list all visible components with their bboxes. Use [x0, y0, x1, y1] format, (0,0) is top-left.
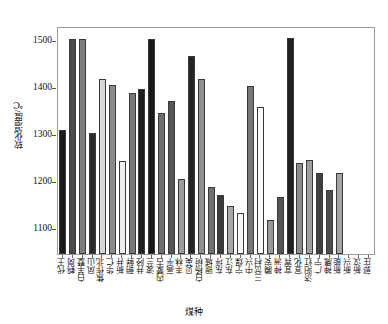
- x-tick-label-text: 腾安: [265, 258, 274, 274]
- bar: [247, 86, 254, 254]
- x-tick-label-text: 波兰: [147, 258, 156, 274]
- y-tick-mark-1300: [52, 135, 56, 136]
- x-tick-label-text: 贝英: [186, 258, 195, 274]
- x-tick-label: 白羊墅: [78, 258, 87, 282]
- bar: [237, 213, 244, 254]
- x-tick-label-text: 新井: [117, 258, 126, 274]
- y-tick-mark-1400: [52, 88, 56, 89]
- y-tick-label-1300: 1300: [33, 131, 52, 141]
- x-tick-mark: [250, 255, 251, 258]
- x-tick-mark: [259, 255, 260, 258]
- x-tick-label-text: 白杨树: [196, 258, 205, 282]
- x-tick-label-text: 济阳红: [305, 258, 314, 282]
- x-tick-label: 神鹰: [325, 258, 334, 274]
- x-tick-label: 神洲: [275, 258, 284, 274]
- x-tick-label-text: 银城: [206, 258, 215, 274]
- bar: [316, 173, 323, 254]
- x-tick-label-text: 神鹰: [325, 258, 334, 274]
- bar: [227, 206, 234, 254]
- x-tick-mark: [111, 255, 112, 258]
- bar: [257, 107, 264, 254]
- x-tick-label: 鹤岗: [68, 258, 77, 274]
- bar: [336, 173, 343, 254]
- x-tick-mark: [72, 255, 73, 258]
- bar: [168, 101, 175, 254]
- bar: [208, 187, 215, 254]
- bar: [129, 93, 136, 254]
- x-tick-label: 波兰: [147, 258, 156, 274]
- x-tick-mark: [161, 255, 162, 258]
- x-tick-label-text: 宜宾: [285, 258, 294, 274]
- x-tick-label: 新能: [334, 258, 343, 274]
- x-tick-mark: [348, 255, 349, 258]
- x-tick-mark: [319, 255, 320, 258]
- x-tick-mark: [358, 255, 359, 258]
- bar: [267, 220, 274, 254]
- x-tick-label: 腾安: [265, 258, 274, 274]
- x-tick-label: 内蒙古: [157, 258, 166, 282]
- plot-area: [57, 27, 375, 255]
- bar: [69, 39, 76, 254]
- x-tick-label-text: 凤山: [88, 258, 97, 274]
- bar: [59, 130, 66, 254]
- x-tick-mark: [368, 255, 369, 258]
- x-tick-label-text: 广宁: [315, 258, 324, 274]
- bar: [296, 163, 303, 254]
- x-tick-mark: [101, 255, 102, 258]
- x-tick-label: 郭庄: [364, 258, 373, 274]
- x-tick-mark: [230, 255, 231, 258]
- x-tick-label-text: 白羊墅: [78, 258, 87, 282]
- x-tick-label-text: 中兴: [246, 258, 255, 274]
- x-tick-label-text: 华仁: [107, 258, 116, 274]
- x-tick-mark: [240, 255, 241, 258]
- x-tick-label: 三岔村: [255, 258, 264, 282]
- bar: [119, 161, 126, 254]
- x-tick-mark: [82, 255, 83, 258]
- x-tick-mark: [200, 255, 201, 258]
- x-tick-mark: [210, 255, 211, 258]
- x-tick-label-text: 井陉: [137, 258, 146, 274]
- x-tick-label: 焦作北: [97, 258, 106, 282]
- x-tick-label-text: 丰林: [176, 258, 185, 274]
- x-tick-mark: [151, 255, 152, 258]
- x-tick-label: 中兴: [246, 258, 255, 274]
- bar: [79, 39, 86, 254]
- x-tick-label-text: 神洲: [275, 258, 284, 274]
- x-tick-label: 银城: [206, 258, 215, 274]
- bar: [99, 79, 106, 254]
- x-tick-label-text: 焦作北: [97, 258, 106, 282]
- x-tick-mark: [92, 255, 93, 258]
- x-tick-mark: [269, 255, 270, 258]
- y-tick-mark-1200: [52, 182, 56, 183]
- x-tick-mark: [299, 255, 300, 258]
- bar: [277, 197, 284, 254]
- bar: [217, 195, 224, 254]
- x-tick-label: 东江: [226, 258, 235, 274]
- x-tick-label-text: 东江: [226, 258, 235, 274]
- x-tick-label: 宁煤: [236, 258, 245, 274]
- y-tick-label-1100: 1100: [33, 225, 52, 235]
- bar: [158, 113, 165, 254]
- bar: [138, 89, 145, 254]
- x-tick-mark: [190, 255, 191, 258]
- x-tick-mark: [121, 255, 122, 258]
- x-tick-label-text: 新汶: [354, 258, 363, 274]
- x-tick-label-text: 三岔村: [255, 258, 264, 282]
- x-tick-label-text: 朝鲜: [127, 258, 136, 274]
- x-tick-mark: [279, 255, 280, 258]
- x-tick-label-text: 代王: [58, 258, 67, 274]
- x-tick-mark: [141, 255, 142, 258]
- x-tick-label: 华仁: [107, 258, 116, 274]
- x-tick-label-text: 新能: [334, 258, 343, 274]
- x-tick-label: 朝鲜: [127, 258, 136, 274]
- x-tick-label: 凤山: [88, 258, 97, 274]
- x-tick-label: 代王: [58, 258, 67, 274]
- x-tick-mark: [62, 255, 63, 258]
- x-tick-mark: [171, 255, 172, 258]
- x-tick-mark: [338, 255, 339, 258]
- y-tick-label-1400: 1400: [33, 83, 52, 93]
- y-tick-label-1500: 1500: [33, 36, 52, 46]
- x-tick-label: 贝英: [186, 258, 195, 274]
- bar: [198, 79, 205, 254]
- x-tick-mark: [220, 255, 221, 258]
